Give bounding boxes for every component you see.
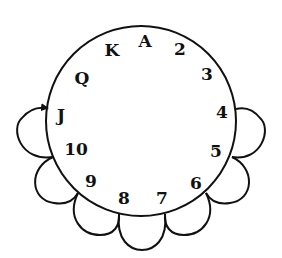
label-a: A (137, 31, 152, 51)
label-8: 8 (118, 188, 130, 208)
label-k: K (105, 40, 121, 60)
label-4: 4 (216, 102, 228, 122)
loop-6-5 (206, 157, 249, 203)
main-circle (46, 26, 236, 216)
label-10: 10 (64, 139, 88, 159)
labels: A 2 3 4 5 6 7 8 9 10 J Q K (55, 31, 228, 208)
loop-9-8 (74, 193, 119, 235)
label-9: 9 (85, 171, 97, 191)
loop-8-7 (119, 214, 166, 250)
label-6: 6 (190, 173, 202, 193)
label-3: 3 (201, 64, 213, 84)
loop-7-6 (165, 193, 210, 235)
clock-cycle-diagram: A 2 3 4 5 6 7 8 9 10 J Q K (0, 0, 282, 258)
label-7: 7 (156, 188, 168, 208)
label-2: 2 (174, 39, 186, 59)
loop-5-4 (232, 108, 265, 157)
label-q: Q (75, 68, 90, 88)
label-5: 5 (210, 141, 222, 161)
label-j: J (55, 105, 65, 125)
